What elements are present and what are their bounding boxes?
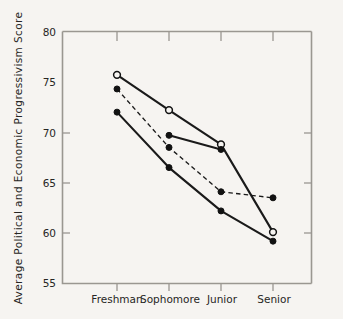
series-series-4-partial-filled-solid (166, 132, 224, 152)
data-point-series-2-filled-dashed-sophomore (166, 144, 172, 150)
y-tick-label-60: 60 (43, 227, 56, 239)
y-tick-label-80: 80 (43, 26, 56, 38)
series-series-1-open-solid (114, 71, 277, 235)
data-point-series-3-filled-solid-senior (270, 238, 276, 244)
data-point-series-4-partial-filled-solid-junior (218, 146, 224, 152)
series-series-3-filled-solid (114, 109, 276, 244)
data-point-series-1-open-solid-freshman (114, 71, 121, 78)
y-tick-labels: 80 75 70 65 60 55 (43, 26, 56, 289)
x-tick-label-sophomore: Sophomore (140, 293, 200, 305)
data-point-series-1-open-solid-sophomore (166, 107, 173, 114)
y-tick-label-65: 65 (43, 177, 56, 189)
line-chart-canvas: 80 75 70 65 60 55 Freshman Sophomore Jun… (0, 0, 343, 319)
data-point-series-2-filled-dashed-senior (270, 195, 276, 201)
axis-spines (63, 32, 312, 284)
plot-axes (63, 32, 312, 284)
series-path-series-4-partial-filled-solid (169, 135, 221, 149)
x-tick-label-freshman: Freshman (91, 293, 142, 305)
series-path-series-1-open-solid (117, 75, 273, 232)
data-point-series-4-partial-filled-solid-sophomore (166, 132, 172, 138)
data-point-series-3-filled-solid-sophomore (166, 165, 172, 171)
chart-figure: 80 75 70 65 60 55 Freshman Sophomore Jun… (0, 0, 343, 319)
data-point-series-3-filled-solid-freshman (114, 109, 120, 115)
y-tick-label-70: 70 (43, 127, 56, 139)
data-point-series-2-filled-dashed-freshman (114, 86, 120, 92)
y-tick-label-75: 75 (43, 76, 56, 88)
data-point-series-3-filled-solid-junior (218, 208, 224, 214)
x-tick-labels: Freshman Sophomore Junior Senior (91, 293, 291, 305)
data-series-layer (114, 71, 277, 244)
data-point-series-2-filled-dashed-junior (218, 189, 224, 195)
x-tick-label-junior: Junior (206, 293, 238, 305)
series-path-series-3-filled-solid (117, 112, 273, 241)
y-axis-title: Average Political and Economic Progressi… (12, 12, 24, 305)
x-tick-label-senior: Senior (257, 293, 291, 305)
data-point-series-1-open-solid-senior (270, 229, 277, 236)
x-tick-marks (117, 32, 273, 292)
y-tick-label-55: 55 (43, 277, 56, 289)
